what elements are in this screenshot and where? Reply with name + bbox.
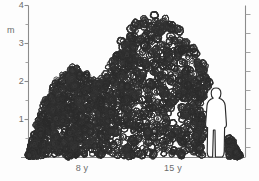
y-tick-label-2: 2	[10, 77, 24, 86]
right-axis	[246, 6, 251, 158]
y-tick-label-4: 4	[10, 1, 24, 10]
y-tick-label-3: 3	[10, 39, 24, 48]
x-tick-label-15y: 15 y	[151, 164, 195, 173]
y-tick-label-1: 1	[10, 115, 24, 124]
canopy-profile-plot	[0, 0, 259, 181]
x-tick-label-8y: 8 y	[60, 164, 104, 173]
tree-canopy-profile-figure: m 4 3 2 1 8 y 15 y	[0, 0, 259, 181]
left-axis	[25, 6, 29, 158]
human-silhouette-icon	[206, 88, 227, 157]
y-axis-unit-label: m	[7, 26, 15, 35]
